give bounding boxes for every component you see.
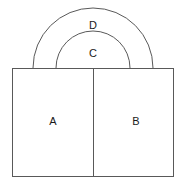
label-region-a: A [49, 115, 57, 127]
geometry-figure: D C A B [0, 0, 184, 187]
label-region-c: C [89, 47, 97, 59]
label-region-b: B [132, 115, 139, 127]
arc-d-outer [33, 8, 153, 68]
figure-canvas: D C A B [0, 0, 184, 187]
label-region-d: D [89, 19, 97, 31]
